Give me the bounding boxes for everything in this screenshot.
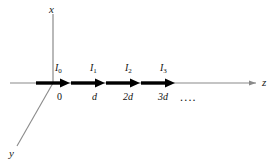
tick-label-3d: 3d — [158, 92, 168, 102]
y-axis-line — [17, 83, 53, 146]
current-label-2: I2 — [125, 63, 132, 73]
tick-label-2d: 2d — [123, 92, 133, 102]
current-label-1: I1 — [90, 63, 97, 73]
tick-label-d: d — [92, 92, 97, 102]
current-element-2 — [106, 79, 140, 88]
continuation-ellipsis: .... — [180, 90, 197, 105]
current-label-1-subscript: 1 — [93, 67, 97, 75]
y-axis-label: y — [9, 148, 14, 159]
tick-label-origin: 0 — [57, 92, 62, 102]
current-label-0: I0 — [55, 63, 62, 73]
diagram-canvas — [0, 0, 274, 167]
current-label-3-subscript: 3 — [163, 67, 167, 75]
current-element-3 — [141, 79, 175, 88]
current-label-2-subscript: 2 — [128, 67, 132, 75]
current-label-0-subscript: 0 — [58, 67, 62, 75]
z-axis-label: z — [262, 77, 266, 88]
current-element-1 — [71, 79, 105, 88]
physics-diagram-figure: x y z I0 I1 I2 I3 0 d 2d 3d .... — [0, 0, 274, 167]
x-axis-label: x — [49, 4, 54, 15]
current-label-3: I3 — [160, 63, 167, 73]
